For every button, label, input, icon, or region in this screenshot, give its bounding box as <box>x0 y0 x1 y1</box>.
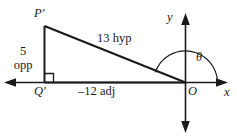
origin-label: O <box>188 85 197 98</box>
adjacent-side-label: –12 adj <box>78 85 115 98</box>
theta-label: θ <box>196 51 202 64</box>
y-axis-arrow-up <box>181 13 190 25</box>
opposite-value: 5 <box>8 44 38 58</box>
right-angle-marker <box>45 74 54 83</box>
y-axis <box>181 13 190 133</box>
y-axis-label: y <box>167 11 173 24</box>
y-axis-arrow-down <box>181 121 190 133</box>
theta-angle-arc <box>155 51 217 83</box>
hypotenuse-label: 13 hyp <box>97 32 131 45</box>
point-label-q-prime: Q′ <box>34 85 46 98</box>
x-axis-label: x <box>224 86 230 99</box>
opposite-side-label: 5 opp <box>8 44 38 72</box>
opposite-name: opp <box>8 58 38 72</box>
point-label-p-prime: P′ <box>34 7 44 20</box>
x-axis-arrow-left <box>4 78 16 87</box>
trigonometry-reference-triangle-figure: P′ 5 opp Q′ –12 adj 13 hyp θ O y x <box>0 0 237 139</box>
